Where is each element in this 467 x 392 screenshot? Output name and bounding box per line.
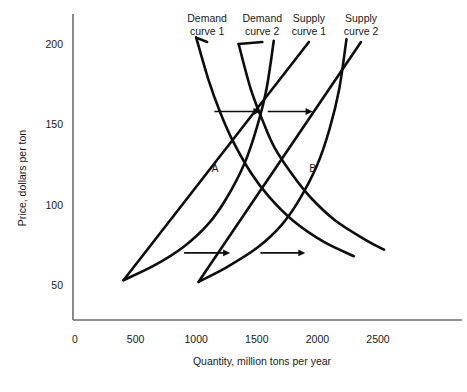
x-tick-label: 1500 xyxy=(245,333,269,345)
curve-label-demand-2: Demandcurve 2 xyxy=(242,12,282,37)
curve-label-line-1: Supply xyxy=(345,12,378,24)
x-axis-tick-labels: 05001000150020002500 xyxy=(72,333,390,345)
point-b: B xyxy=(309,162,316,174)
x-tick-label: 2000 xyxy=(306,333,330,345)
lower-left-shift-arrow-head xyxy=(223,250,230,257)
y-axis-tick-labels: 50100150200 xyxy=(45,38,63,291)
shift-arrows-group xyxy=(184,108,313,256)
chart-canvas: 05001000150020002500 50100150200 Quantit… xyxy=(0,0,467,392)
y-axis-title: Price, dollars per ton xyxy=(16,130,28,226)
y-tick-label: 50 xyxy=(51,279,63,291)
leader-line xyxy=(239,42,263,44)
lower-right-shift-arrow-head xyxy=(298,250,305,257)
curve-label-demand-1: Demandcurve 1 xyxy=(187,12,227,37)
x-tick-label: 2500 xyxy=(366,333,390,345)
supply-demand-chart: 05001000150020002500 50100150200 Quantit… xyxy=(0,0,467,392)
curves-group xyxy=(123,38,384,282)
curve-label-supply-3: Supplycurve 1 xyxy=(292,12,327,37)
curve-label-line-2: curve 2 xyxy=(344,25,379,37)
curve-label-line-1: Demand xyxy=(242,12,282,24)
y-tick-label: 100 xyxy=(45,199,63,211)
curve-labels-group: Demandcurve 1Demandcurve 2Supplycurve 1S… xyxy=(187,12,378,37)
y-tick-label: 200 xyxy=(45,38,63,50)
curve-label-line-2: curve 1 xyxy=(190,25,225,37)
curve-label-supply-4: Supplycurve 2 xyxy=(344,12,379,37)
curve-label-line-2: curve 2 xyxy=(245,25,280,37)
equilibrium-point-labels: AB xyxy=(212,162,317,174)
curve-supply-3 xyxy=(123,41,273,280)
y-tick-label: 150 xyxy=(45,118,63,130)
curve-supply-4 xyxy=(199,39,347,282)
x-tick-label: 0 xyxy=(72,333,78,345)
curve-label-line-2: curve 1 xyxy=(292,25,327,37)
curve-demand-2 xyxy=(239,44,384,250)
curve-label-line-1: Supply xyxy=(293,12,326,24)
curve-label-line-1: Demand xyxy=(187,12,227,24)
x-tick-label: 1000 xyxy=(185,333,209,345)
axes-group xyxy=(73,14,462,320)
x-tick-label: 500 xyxy=(127,333,145,345)
x-axis-title: Quantity, million tons per year xyxy=(193,355,332,367)
